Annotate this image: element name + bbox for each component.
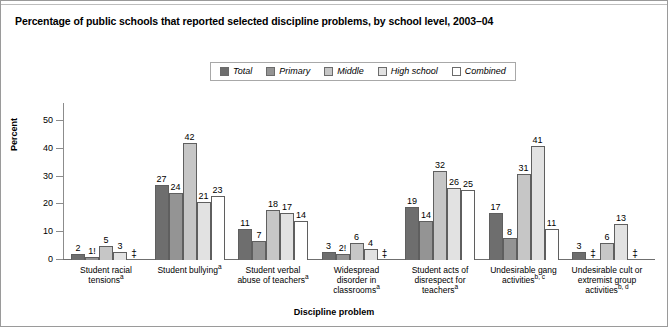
bar[interactable]: [531, 146, 545, 260]
bar-slot[interactable]: ‡: [127, 107, 141, 260]
y-axis-tick: [56, 259, 63, 260]
y-axis-tick-label: 50: [29, 115, 53, 125]
y-axis-tick-label: 30: [29, 171, 53, 181]
bar[interactable]: [517, 174, 531, 260]
plot-area: 21!53‡272442212311718171432!64‡191432262…: [63, 107, 653, 260]
bar-value-label: ‡: [121, 249, 147, 259]
category-footnote-marker: a: [454, 283, 458, 290]
bar-slot[interactable]: 31: [517, 107, 531, 260]
category-label-line: Widespread: [314, 265, 400, 275]
bar[interactable]: [336, 254, 350, 260]
bar-slot[interactable]: 25: [461, 107, 475, 260]
legend-label: Middle: [337, 67, 364, 76]
bar-slot[interactable]: 3: [113, 107, 127, 260]
bar[interactable]: [85, 257, 99, 260]
bar-slot[interactable]: 3: [322, 107, 336, 260]
bar[interactable]: [545, 229, 559, 260]
bar-group: 1914322625: [405, 107, 475, 260]
bar[interactable]: [169, 193, 183, 260]
bar-slot[interactable]: 8: [503, 107, 517, 260]
bar-group: 21!53‡: [71, 107, 141, 260]
bar[interactable]: [266, 210, 280, 260]
category-label-line: Student racial: [58, 265, 154, 275]
bar[interactable]: [600, 243, 614, 260]
y-axis-tick: [56, 176, 63, 177]
y-axis-tick-label: 40: [29, 143, 53, 153]
bar-slot[interactable]: 11: [545, 107, 559, 260]
bar-group: 178314111: [489, 107, 559, 260]
bar-slot[interactable]: 17: [489, 107, 503, 260]
y-axis-tick: [56, 203, 63, 204]
bar[interactable]: [503, 238, 517, 260]
x-axis-category-label: Widespreaddisorder inclassroomsa: [314, 265, 400, 295]
bar-slot[interactable]: 17: [280, 107, 294, 260]
legend-swatch-icon: [324, 67, 333, 76]
legend-item-high-school[interactable]: High school: [378, 67, 438, 76]
bar-slot[interactable]: ‡: [378, 107, 392, 260]
bar-slot[interactable]: 42: [183, 107, 197, 260]
bar-value-label: ‡: [372, 249, 398, 259]
category-label-line: Undesirable cult or: [552, 265, 662, 275]
category-footnote-marker: a: [376, 283, 380, 290]
bar-slot[interactable]: 41: [531, 107, 545, 260]
category-label-line: tensionsa: [58, 275, 154, 285]
bar[interactable]: [183, 143, 197, 260]
bar-slot[interactable]: 21: [197, 107, 211, 260]
bar-slot[interactable]: ‡: [628, 107, 642, 260]
chart-figure: Percentage of public schools that report…: [0, 0, 668, 327]
bar-slot[interactable]: 2: [71, 107, 85, 260]
bar-group: 2724422123: [155, 107, 225, 260]
bar[interactable]: [211, 196, 225, 260]
category-label-line: disorder in: [314, 275, 400, 285]
category-footnote-marker: b, c: [535, 273, 545, 280]
bar[interactable]: [294, 221, 308, 260]
legend-item-combined[interactable]: Combined: [452, 67, 506, 76]
bar[interactable]: [461, 190, 475, 260]
bar-slot[interactable]: 23: [211, 107, 225, 260]
bar-value-label: 23: [205, 185, 231, 195]
bar[interactable]: [419, 221, 433, 260]
x-axis-category-label: Student verbalabuse of teachersa: [221, 265, 325, 285]
legend-label: Total: [233, 67, 252, 76]
bar[interactable]: [155, 185, 169, 260]
bar-value-label: 25: [455, 179, 481, 189]
bar-group: 117181714: [238, 107, 308, 260]
bar-slot[interactable]: 24: [169, 107, 183, 260]
category-footnote-marker: a: [120, 273, 124, 280]
bar-slot[interactable]: 13: [614, 107, 628, 260]
legend-item-middle[interactable]: Middle: [324, 67, 364, 76]
bar-slot[interactable]: 19: [405, 107, 419, 260]
bar-slot[interactable]: 5: [99, 107, 113, 260]
bar-group: 3‡613‡: [572, 107, 642, 260]
legend-label: Primary: [279, 67, 310, 76]
bar[interactable]: [252, 241, 266, 260]
bar-slot[interactable]: 3: [572, 107, 586, 260]
legend-label: Combined: [465, 67, 506, 76]
bar-slot[interactable]: 6: [600, 107, 614, 260]
x-axis-title: Discipline problem: [1, 307, 667, 317]
y-axis-tick-label: 20: [29, 198, 53, 208]
bar-slot[interactable]: 18: [266, 107, 280, 260]
bar-group: 32!64‡: [322, 107, 392, 260]
y-axis-tick: [56, 231, 63, 232]
y-axis-tick-label: 10: [29, 226, 53, 236]
category-label-line: classroomsa: [314, 285, 400, 295]
bar-slot[interactable]: 7: [252, 107, 266, 260]
category-label-line: activitiesb, d: [552, 285, 662, 295]
category-label-line: teachersa: [388, 285, 492, 295]
bar-slot[interactable]: 4: [364, 107, 378, 260]
chart-title: Percentage of public schools that report…: [15, 15, 653, 27]
legend-item-primary[interactable]: Primary: [266, 67, 310, 76]
legend-swatch-icon: [452, 67, 461, 76]
y-axis-tick: [56, 148, 63, 149]
bar-slot[interactable]: 14: [419, 107, 433, 260]
bar[interactable]: [197, 202, 211, 260]
y-axis-tick-label: 0: [29, 254, 53, 264]
legend-item-total[interactable]: Total: [220, 67, 252, 76]
bar-value-label: 14: [288, 210, 314, 220]
chart-legend: TotalPrimaryMiddleHigh schoolCombined: [210, 62, 516, 81]
bar-slot[interactable]: 14: [294, 107, 308, 260]
bar[interactable]: [447, 188, 461, 260]
category-footnote-marker: a: [305, 273, 309, 280]
x-axis-category-label: Undesirable cult orextremist groupactivi…: [552, 265, 662, 295]
